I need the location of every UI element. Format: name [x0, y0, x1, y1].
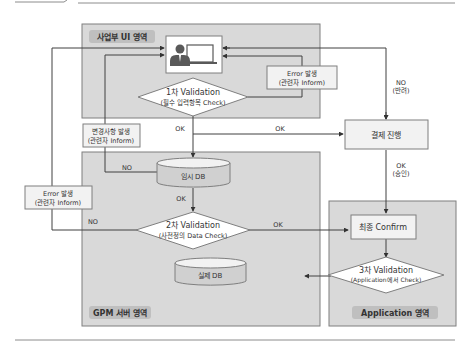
edge-label-v2-no: NO: [88, 218, 98, 226]
temp-db-cylinder: 임시 DB: [157, 158, 230, 187]
validation3-subtitle: (Application에서 Check): [351, 276, 422, 284]
edge-label-payment-no-line1: NO: [396, 79, 406, 87]
payment-label: 결제 진행: [371, 130, 402, 140]
zone-app-label: Application 영역: [361, 308, 429, 318]
validation1-title: 1차 Validation: [166, 88, 220, 97]
change-notice-line1: 변경사항 발생: [92, 127, 130, 136]
edge-label-payment-ok-line1: OK: [396, 162, 406, 170]
change-notice-line2: (관련자 Inform): [88, 136, 134, 145]
zone-gpm-label: GPM 서버 영역: [93, 308, 147, 318]
user-with-monitor-icon: [170, 45, 217, 67]
validation2-subtitle: (사전정의 Data Check): [159, 231, 228, 240]
edge-label-tempdb-ok: OK: [176, 195, 186, 203]
validation1-subtitle: (필수 입력항목 Check): [160, 98, 225, 107]
user-node: [166, 36, 222, 73]
error-left-box: Error 발생 (관련자 Inform): [25, 186, 92, 209]
edge-label-payment-ok-line2: (승인): [392, 169, 409, 178]
error-top-box: Error 발생 (관련자 Inform): [267, 66, 337, 89]
validation2-title: 2차 Validation: [166, 221, 220, 230]
edge-label-v2-ok: OK: [273, 221, 283, 229]
change-notice-box: 변경사항 발생 (관련자 Inform): [83, 124, 140, 147]
edge-label-v1-ok-right: OK: [275, 125, 285, 133]
header-rule: [15, 0, 455, 3]
edge-label-tempdb-no: NO: [122, 164, 132, 172]
error-left-line1: Error 발생: [43, 189, 73, 198]
final-confirm-label: 최종 Confirm: [359, 222, 407, 232]
real-db-cylinder: 실제 DB: [175, 258, 246, 285]
validation3-title: 3차 Validation: [359, 266, 413, 275]
temp-db-label: 임시 DB: [181, 173, 206, 181]
flow-diagram: 사업부 UI 영역 GPM 서버 영역 Application 영역: [0, 0, 470, 348]
error-top-line2: (관련자 Inform): [279, 78, 325, 87]
error-left-line2: (관련자 Inform): [35, 198, 81, 207]
payment-box: 결제 진행: [345, 120, 428, 149]
zone-ui-label: 사업부 UI 영역: [97, 32, 147, 42]
real-db-label: 실제 DB: [198, 271, 223, 280]
error-top-line1: Error 발생: [287, 69, 317, 78]
final-confirm-box: 최종 Confirm: [351, 215, 416, 239]
edge-label-payment-no-line2: (반려): [392, 86, 409, 95]
edge-label-v1-ok-down: OK: [175, 125, 185, 133]
